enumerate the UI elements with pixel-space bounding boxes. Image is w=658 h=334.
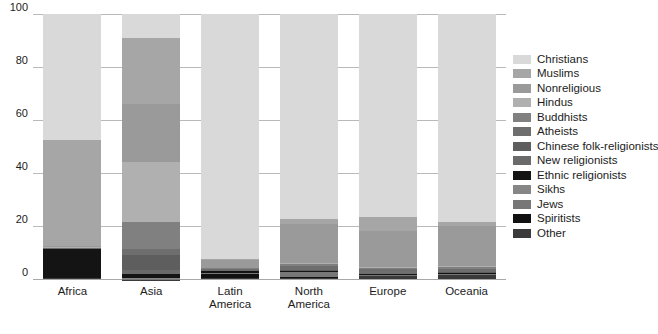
bar-segment-christians bbox=[438, 14, 496, 222]
y-tick-label-60: 60 bbox=[0, 107, 28, 119]
bar-segment-other bbox=[280, 278, 338, 279]
legend-swatch-icon bbox=[513, 185, 531, 194]
bar-segment-nonreligious bbox=[438, 226, 496, 266]
bar-segment-muslims bbox=[122, 38, 180, 104]
bar-segment-muslims bbox=[43, 140, 101, 246]
gridline-80 bbox=[33, 67, 506, 68]
legend-swatch-icon bbox=[513, 84, 531, 93]
bar-stack bbox=[201, 14, 259, 279]
legend-item-new-religionists[interactable]: New religionists bbox=[513, 154, 653, 169]
bar-segment-other bbox=[359, 276, 417, 279]
legend-item-label: Ethnic religionists bbox=[537, 169, 626, 182]
bar-asia bbox=[122, 14, 180, 279]
legend-item-label: Nonreligious bbox=[537, 82, 601, 95]
legend-item-muslims[interactable]: Muslims bbox=[513, 67, 653, 82]
legend-item-other[interactable]: Other bbox=[513, 226, 653, 241]
gridline-60 bbox=[33, 120, 506, 121]
bar-africa bbox=[43, 14, 101, 279]
legend-item-sikhs[interactable]: Sikhs bbox=[513, 183, 653, 198]
bar-segment-christians bbox=[43, 14, 101, 140]
bar-stack bbox=[280, 14, 338, 279]
x-tick-label-africa: Africa bbox=[29, 285, 115, 298]
y-tick-label-80: 80 bbox=[0, 54, 28, 66]
legend-item-ethnic-religionists[interactable]: Ethnic religionists bbox=[513, 168, 653, 183]
legend-swatch-icon bbox=[513, 156, 531, 165]
bar-europe bbox=[359, 14, 417, 279]
gridline-100 bbox=[33, 14, 506, 15]
legend-item-label: Spiritists bbox=[537, 212, 580, 225]
bar-segment-muslims bbox=[359, 217, 417, 232]
bar-segment-christians bbox=[122, 14, 180, 38]
legend-item-christians[interactable]: Christians bbox=[513, 52, 653, 67]
bar-north-america bbox=[280, 14, 338, 279]
y-tick-label-100: 100 bbox=[0, 1, 28, 13]
x-tick-line: Latin bbox=[187, 285, 273, 298]
legend-item-spiritists[interactable]: Spiritists bbox=[513, 212, 653, 227]
x-tick-line: Europe bbox=[345, 285, 431, 298]
legend-item-label: Sikhs bbox=[537, 183, 565, 196]
legend-item-nonreligious[interactable]: Nonreligious bbox=[513, 81, 653, 96]
bar-segment-other bbox=[201, 278, 259, 279]
legend-item-jews[interactable]: Jews bbox=[513, 197, 653, 212]
bar-segment-other bbox=[43, 278, 101, 279]
gridline-0 bbox=[33, 279, 506, 280]
bar-segment-other bbox=[122, 280, 180, 281]
x-tick-line: Oceania bbox=[424, 285, 510, 298]
bar-stack bbox=[122, 14, 180, 279]
bar-stack bbox=[438, 14, 496, 279]
bar-segment-christians bbox=[280, 14, 338, 219]
bar-segment-christians bbox=[359, 14, 417, 217]
legend-swatch-icon bbox=[513, 200, 531, 209]
legend-swatch-icon bbox=[513, 69, 531, 78]
legend-swatch-icon bbox=[513, 214, 531, 223]
legend-swatch-icon bbox=[513, 229, 531, 238]
bar-stack bbox=[359, 14, 417, 279]
legend-item-buddhists[interactable]: Buddhists bbox=[513, 110, 653, 125]
y-tick-label-0: 0 bbox=[0, 266, 28, 278]
bar-segment-chinese-folk-religionists bbox=[122, 255, 180, 270]
bar-segment-nonreligious bbox=[201, 260, 259, 268]
bar-stack bbox=[43, 14, 101, 279]
legend: ChristiansMuslimsNonreligiousHindusBuddh… bbox=[513, 52, 653, 241]
plot-area bbox=[33, 14, 506, 279]
bar-segment-nonreligious bbox=[122, 104, 180, 162]
x-tick-line: Africa bbox=[29, 285, 115, 298]
legend-item-label: Buddhists bbox=[537, 111, 588, 124]
x-tick-line: America bbox=[187, 298, 273, 311]
legend-item-atheists[interactable]: Atheists bbox=[513, 125, 653, 140]
bar-segment-buddhists bbox=[122, 222, 180, 249]
legend-swatch-icon bbox=[513, 127, 531, 136]
bar-segment-nonreligious bbox=[359, 231, 417, 267]
x-tick-line: America bbox=[266, 298, 352, 311]
x-tick-line: North bbox=[266, 285, 352, 298]
gridline-20 bbox=[33, 226, 506, 227]
legend-item-label: Jews bbox=[537, 198, 563, 211]
x-tick-label-north-america: NorthAmerica bbox=[266, 285, 352, 311]
bar-segment-other bbox=[438, 275, 496, 279]
legend-swatch-icon bbox=[513, 113, 531, 122]
bar-segment-hindus bbox=[122, 162, 180, 222]
legend-item-label: Hindus bbox=[537, 96, 573, 109]
legend-item-label: Christians bbox=[537, 53, 588, 66]
x-tick-label-oceania: Oceania bbox=[424, 285, 510, 298]
x-tick-label-asia: Asia bbox=[108, 285, 194, 298]
x-tick-label-latin-america: LatinAmerica bbox=[187, 285, 273, 311]
bar-latin-america bbox=[201, 14, 259, 279]
bar-segment-atheists bbox=[122, 249, 180, 256]
x-tick-label-europe: Europe bbox=[345, 285, 431, 298]
legend-swatch-icon bbox=[513, 98, 531, 107]
x-tick-line: Asia bbox=[108, 285, 194, 298]
legend-item-hindus[interactable]: Hindus bbox=[513, 96, 653, 111]
legend-swatch-icon bbox=[513, 55, 531, 64]
bar-oceania bbox=[438, 14, 496, 279]
legend-item-chinese-folk-religionists[interactable]: Chinese folk-religionists bbox=[513, 139, 653, 154]
legend-item-label: Other bbox=[537, 227, 566, 240]
legend-swatch-icon bbox=[513, 171, 531, 180]
y-tick-label-40: 40 bbox=[0, 160, 28, 172]
legend-item-label: New religionists bbox=[537, 154, 618, 167]
gridline-40 bbox=[33, 173, 506, 174]
legend-swatch-icon bbox=[513, 142, 531, 151]
legend-item-label: Atheists bbox=[537, 125, 578, 138]
bar-segment-ethnic-religionists bbox=[43, 249, 101, 278]
